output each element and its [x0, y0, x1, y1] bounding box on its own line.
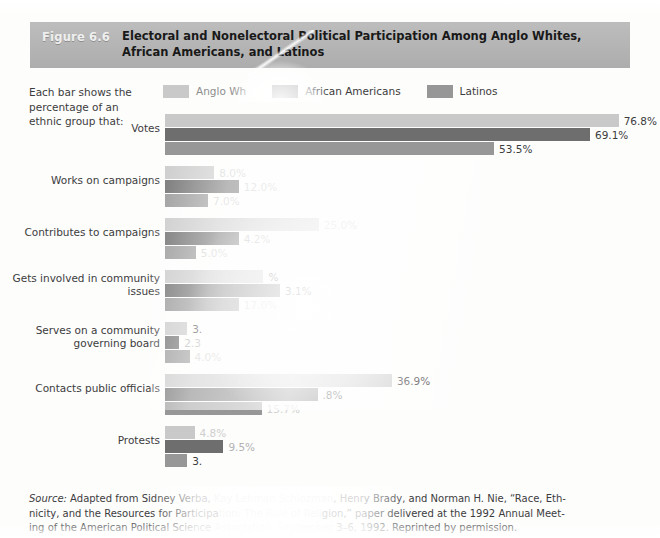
bar-african-americans: [165, 440, 223, 453]
legend-swatch-icon: [163, 85, 189, 98]
row-bars: 8.0%12.0%7.0%: [165, 166, 657, 208]
bar-value-label: 5.0%: [201, 247, 228, 259]
bar-line: 25.0%: [165, 218, 657, 231]
bar-value-label: 69.1%: [595, 129, 628, 141]
bar-value-label: %: [268, 271, 278, 283]
source-text-1a: Adapted from Sidney Verba,: [67, 493, 214, 504]
legend-item-2: Latinos: [427, 85, 498, 98]
bar-latinos: [165, 402, 262, 415]
bar-value-label: 7.0%: [213, 195, 240, 207]
bar-line: 4.0%: [165, 350, 657, 363]
bar-value-label: 3.1%: [285, 285, 312, 297]
chart-row: Votes76.8%69.1%53.5%: [0, 108, 660, 160]
bar-anglo-whites: [165, 374, 392, 387]
bar-line: 9.5%: [165, 440, 657, 453]
chart-row: Serves on a community governing board3.2…: [0, 316, 660, 368]
bar-value-label: .8%: [323, 389, 343, 401]
row-label: Gets involved in community issues: [5, 272, 160, 299]
bar-value-label: 3.: [192, 455, 202, 467]
legend-item-1: African Americans: [272, 85, 400, 98]
row-bars: 76.8%69.1%53.5%: [165, 114, 657, 156]
bar-value-label: 53.5%: [499, 143, 532, 155]
row-label: Votes: [5, 122, 160, 135]
legend-label: African Americans: [305, 85, 400, 97]
scan-edge-top: [0, 0, 660, 18]
row-label: Contributes to campaigns: [5, 226, 160, 239]
bar-line: %: [165, 270, 657, 283]
bar-line: 7.0%: [165, 194, 657, 207]
bar-value-label: 4.8%: [200, 427, 227, 439]
bar-anglo-whites: [165, 270, 263, 283]
row-bars: %3.1%17.0%: [165, 270, 657, 312]
bar-value-label: 2.3: [184, 337, 201, 349]
figure-header-band: Figure 6.6 Electoral and Nonelectoral Po…: [30, 22, 630, 68]
chart-row: Gets involved in community issues%3.1%17…: [0, 264, 660, 316]
bar-line: 5.0%: [165, 246, 657, 259]
source-text-3-faded: Association, September: [214, 522, 333, 533]
row-label: Protests: [5, 434, 160, 447]
bar-value-label: 4.2%: [244, 233, 271, 245]
bar-african-americans: [165, 180, 239, 193]
chart-row: Contributes to campaigns25.0%4.2%5.0%: [0, 212, 660, 264]
bar-african-americans: [165, 388, 318, 401]
bar-value-label: 4.0%: [195, 351, 222, 363]
bar-line: 4.8%: [165, 426, 657, 439]
row-bars: 36.9%.8%15.7%: [165, 374, 657, 416]
row-label: Serves on a community governing board: [5, 324, 160, 351]
source-text-1-faded: Kay Lehman Schlozman: [214, 493, 333, 504]
bar-line: 8.0%: [165, 166, 657, 179]
row-bars: 3.2.34.0%: [165, 322, 657, 364]
bar-anglo-whites: [165, 322, 187, 335]
chart-row: Contacts public officials36.9%.8%15.7%: [0, 368, 660, 420]
bar-line: 4.2%: [165, 232, 657, 245]
source-label: Source:: [29, 493, 67, 504]
bar-anglo-whites: [165, 166, 214, 179]
bar-latinos: [165, 246, 196, 259]
row-label: Contacts public officials: [5, 382, 160, 395]
figure-number: Figure 6.6: [42, 29, 110, 44]
row-bars: 25.0%4.2%5.0%: [165, 218, 657, 260]
source-note-line-2: nicity, and the Resources for Participat…: [29, 507, 629, 522]
chart-legend: Anglo WhAfrican AmericansLatinos: [163, 81, 513, 101]
bar-african-americans: [165, 232, 239, 245]
bar-value-label: 9.5%: [228, 441, 255, 453]
bar-line: 2.3: [165, 336, 657, 349]
bar-latinos: [165, 194, 208, 207]
source-note-line-3: ing of the American Political Science As…: [29, 521, 629, 536]
figure-title: Electoral and Nonelectoral Political Par…: [122, 29, 620, 60]
legend-item-0: Anglo Wh: [163, 85, 246, 98]
chart-plot-area: Votes76.8%69.1%53.5%Works on campaigns8.…: [0, 108, 660, 472]
legend-swatch-icon: [427, 85, 453, 98]
bar-latinos: [165, 454, 187, 467]
bar-line: 17.0%: [165, 298, 657, 311]
bar-value-label: 12.0%: [244, 181, 277, 193]
row-label: Works on campaigns: [5, 174, 160, 187]
bar-value-label: 3.: [192, 323, 202, 335]
chart-row: Protests4.8%9.5%3.: [0, 420, 660, 472]
bar-value-label: 25.0%: [324, 219, 357, 231]
bar-latinos: [165, 350, 190, 363]
bar-anglo-whites: [165, 218, 319, 231]
bar-latinos: [165, 142, 494, 155]
legend-swatch-icon: [272, 85, 298, 98]
bar-line: 53.5%: [165, 142, 657, 155]
legend-label: Latinos: [460, 85, 498, 97]
bar-line: 36.9%: [165, 374, 657, 387]
bar-african-americans: [165, 336, 179, 349]
bar-anglo-whites: [165, 114, 619, 127]
bar-line: 15.7%: [165, 402, 657, 415]
bar-anglo-whites: [165, 426, 195, 439]
bar-value-label: 15.7%: [267, 403, 300, 415]
bar-value-label: 36.9%: [397, 375, 430, 387]
bar-line: .8%: [165, 388, 657, 401]
legend-label: Anglo Wh: [196, 85, 246, 97]
source-text-1c: , Henry Brady, and Norman H. Nie, “Race,…: [333, 493, 566, 504]
bar-line: 76.8%: [165, 114, 657, 127]
source-text-2a: nicity, and the Resources for Participa: [29, 508, 219, 519]
bar-value-label: 17.0%: [244, 299, 277, 311]
source-text-3a: ing of the American Political Science: [29, 522, 214, 533]
bar-latinos: [165, 298, 239, 311]
figure-container: Figure 6.6 Electoral and Nonelectoral Po…: [0, 0, 660, 538]
bar-line: 3.: [165, 454, 657, 467]
source-text-2-faded: tion: The Role of Reli: [219, 508, 322, 519]
